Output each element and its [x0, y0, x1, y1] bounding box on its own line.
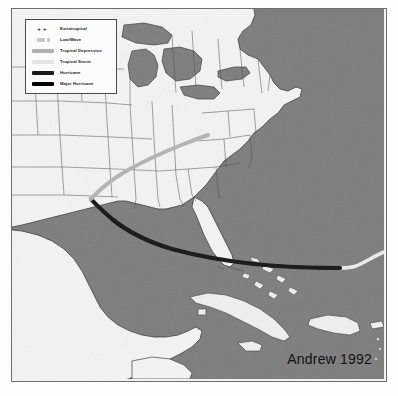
storm-title: Andrew 1992	[287, 351, 372, 367]
legend-item-hurricane: Hurricane	[30, 68, 113, 78]
hurricane-symbol-icon	[30, 68, 56, 78]
legend-label-extratropical: Extratropical	[60, 27, 87, 31]
tropical-storm-symbol-icon	[30, 57, 56, 67]
extratropical-symbol-icon: ++	[30, 24, 56, 34]
map-frame: ++ Extratropical Low/Wave Tropical Depre…	[11, 8, 387, 382]
legend-label-major-hurricane: Major Hurricane	[60, 82, 93, 86]
legend-label-tropical-storm: Tropical Storm	[60, 60, 91, 64]
legend-item-major-hurricane: Major Hurricane	[30, 79, 113, 89]
low-wave-symbol-icon	[30, 35, 56, 45]
legend-label-low-wave: Low/Wave	[60, 38, 81, 42]
legend-label-hurricane: Hurricane	[60, 71, 80, 75]
legend-item-tropical-depression: Tropical Depression	[30, 46, 113, 56]
legend-item-tropical-storm: Tropical Storm	[30, 57, 113, 67]
legend-item-low-wave: Low/Wave	[30, 35, 113, 45]
major-hurricane-symbol-icon	[30, 79, 56, 89]
legend: ++ Extratropical Low/Wave Tropical Depre…	[25, 19, 117, 94]
tropical-depression-symbol-icon	[30, 46, 56, 56]
legend-item-extratropical: ++ Extratropical	[30, 24, 113, 34]
legend-label-tropical-depression: Tropical Depression	[60, 49, 102, 53]
hurricane-track-figure: ++ Extratropical Low/Wave Tropical Depre…	[0, 0, 398, 396]
